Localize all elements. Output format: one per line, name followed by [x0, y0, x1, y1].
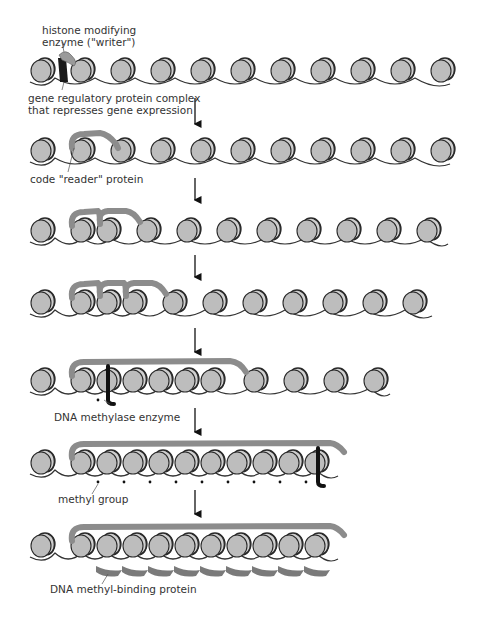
row-step-4: [30, 283, 432, 318]
writer-label-line1: histone modifying: [42, 24, 136, 36]
methyl-binding-proteins: [96, 566, 330, 577]
repressor-label-line1: gene regulatory protein complex: [28, 92, 200, 104]
row-step-5: [30, 361, 390, 404]
writer-label-line2: enzyme ("writer"): [42, 36, 135, 48]
row-step-2: [30, 133, 455, 166]
row-step-7: [30, 526, 344, 577]
repressor-label-line2: that represses gene expression: [28, 104, 193, 116]
methyl-group-label: methyl group: [58, 493, 128, 505]
methylase-label: DNA methylase enzyme: [54, 411, 180, 423]
row-step-3: [30, 211, 448, 246]
row-step-1: [30, 52, 455, 86]
row-step-6: [30, 443, 344, 486]
methyl-binding-label: DNA methyl-binding protein: [50, 583, 197, 595]
reader-label: code "reader" protein: [30, 173, 143, 185]
